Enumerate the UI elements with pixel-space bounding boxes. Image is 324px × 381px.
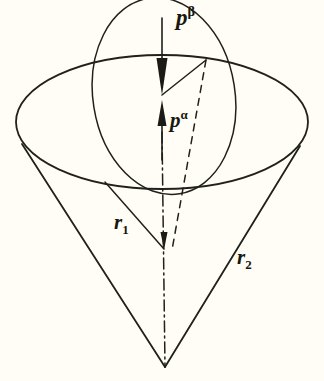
label-r2-subscript: 2 [245,257,252,272]
label-p-beta-superscript: β [188,3,196,19]
label-r1-subscript: 1 [122,222,129,237]
label-r2: r2 [237,247,252,271]
centre-to-rim-chord [162,60,206,95]
cone-diagram-figure: pβ pα r1 r2 [0,0,324,381]
outer-cone-left-generator [22,144,165,367]
label-p-alpha: pα [170,108,188,131]
dashed-generator-line [172,60,206,250]
cone-diagram-svg [0,0,324,381]
label-p-alpha-base: p [170,108,181,132]
p-beta-vector-arrowhead [157,58,168,95]
label-p-alpha-superscript: α [181,107,188,122]
label-p-beta: pβ [176,4,195,29]
label-p-beta-base: p [176,5,188,30]
label-r1: r1 [114,212,129,236]
label-r1-base: r [114,210,122,234]
inner-tilted-ellipse [78,0,249,205]
p-alpha-vector-arrowhead [158,100,167,126]
label-r2-base: r [237,245,245,269]
